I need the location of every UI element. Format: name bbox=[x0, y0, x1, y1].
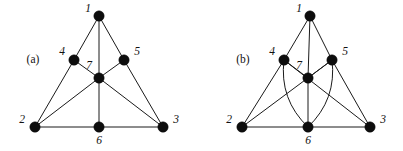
panel-a-caption: (a) bbox=[27, 53, 40, 66]
panel-a-edge-v4-v2 bbox=[35, 60, 74, 127]
panel-a-vertex-label-4: 4 bbox=[59, 45, 65, 57]
panel-a-vertex-4 bbox=[69, 55, 79, 65]
panel-b-vertex-label-4: 4 bbox=[269, 45, 275, 57]
panel-a-edge-v1-v5 bbox=[99, 16, 124, 60]
panel-b-edge-v1-v5 bbox=[310, 16, 332, 60]
panel-b-caption: (b) bbox=[236, 53, 250, 66]
panel-a-vertex-6 bbox=[94, 122, 104, 132]
panel-b-vertex-5 bbox=[327, 55, 337, 65]
panel-b-vertex-label-1: 1 bbox=[296, 2, 302, 14]
panel-a-vertex-label-1: 1 bbox=[85, 2, 91, 14]
panel-a-vertex-label-5: 5 bbox=[134, 45, 140, 57]
figure-container: 1234567(a)1234567(b) bbox=[0, 0, 403, 151]
edges-layer bbox=[35, 16, 370, 127]
panel-b-edge-v1-v7 bbox=[308, 16, 310, 78]
panel-b-edge-v5-v3 bbox=[332, 60, 370, 127]
panel-b-vertex-7 bbox=[303, 73, 313, 83]
panel-b-vertex-label-2: 2 bbox=[226, 113, 232, 125]
panel-b-edge-v4-v2 bbox=[242, 60, 284, 127]
graph-figure-svg: 1234567(a)1234567(b) bbox=[0, 0, 403, 151]
panel-a-vertex-1 bbox=[94, 11, 104, 21]
panel-b-vertex-4 bbox=[279, 55, 289, 65]
panel-b-vertex-1 bbox=[305, 11, 315, 21]
panel-a-vertex-5 bbox=[119, 55, 129, 65]
panel-b-vertex-label-5: 5 bbox=[342, 45, 348, 57]
panel-a-edge-v1-v4 bbox=[74, 16, 99, 60]
labels-layer: 1234567(a)1234567(b) bbox=[19, 2, 386, 146]
panel-b-vertex-label-3: 3 bbox=[379, 113, 386, 125]
panel-b-edge-v5-v6 bbox=[308, 60, 333, 127]
panel-b-vertex-2 bbox=[237, 122, 247, 132]
panel-b-edge-v1-v4 bbox=[284, 16, 310, 60]
panel-a-edge-v5-v3 bbox=[124, 60, 163, 127]
panel-a-vertex-label-6: 6 bbox=[96, 134, 102, 146]
panel-b-vertex-3 bbox=[365, 122, 375, 132]
panel-a-vertex-label-2: 2 bbox=[19, 113, 25, 125]
panel-a-edge-v3-v7 bbox=[99, 78, 163, 127]
panel-a-vertex-label-7: 7 bbox=[86, 59, 93, 71]
panel-a-vertex-3 bbox=[158, 122, 168, 132]
panel-a-vertex-2 bbox=[30, 122, 40, 132]
panel-a-edge-v2-v7 bbox=[35, 78, 99, 127]
panel-b-vertex-6 bbox=[303, 122, 313, 132]
panel-b-vertex-label-7: 7 bbox=[296, 59, 303, 71]
panel-a-vertex-label-3: 3 bbox=[172, 113, 179, 125]
panel-b-vertex-label-6: 6 bbox=[305, 134, 311, 146]
panel-a-vertex-7 bbox=[94, 73, 104, 83]
vertices-layer bbox=[30, 11, 375, 132]
